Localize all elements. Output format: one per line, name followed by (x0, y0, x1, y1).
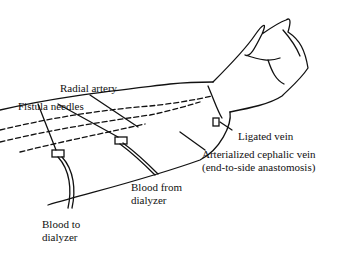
label-arterialized-vein-2: (end-to-side anastomosis) (202, 161, 315, 173)
forearm-drawing (0, 0, 340, 255)
label-blood-from-1: Blood from (131, 181, 182, 193)
label-radial-artery: Radial artery (60, 82, 117, 94)
needle-2 (115, 137, 127, 144)
label-ligated-vein: Ligated vein (238, 130, 293, 142)
hand-outline (213, 19, 308, 112)
tube-from-dialyzer (120, 143, 158, 175)
label-blood-to-1: Blood to (42, 218, 80, 230)
label-blood-to-2: dialyzer (42, 231, 77, 243)
label-fistula-needles: Fistula needles (18, 100, 84, 112)
needle-1 (52, 150, 64, 157)
ligated-vein-clip (213, 118, 219, 126)
label-arterialized-vein-1: Arterialized cephalic vein (202, 148, 316, 160)
label-blood-from-2: dialyzer (131, 194, 166, 206)
